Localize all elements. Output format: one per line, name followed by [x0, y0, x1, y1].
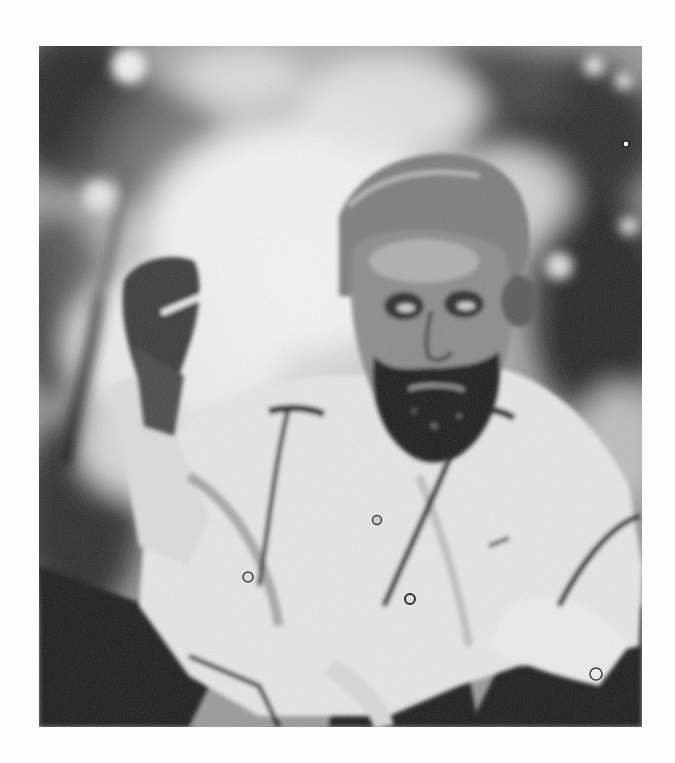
photo-canvas [39, 46, 642, 727]
portrait-photograph [39, 46, 642, 727]
page [0, 0, 675, 763]
dust-speck [623, 141, 629, 147]
film-grain [39, 46, 642, 727]
